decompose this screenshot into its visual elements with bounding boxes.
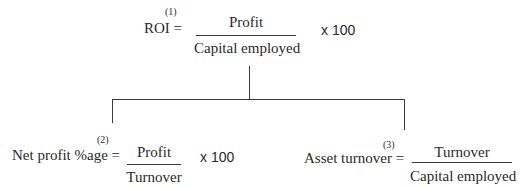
roi-denominator: Capital employed (194, 41, 298, 56)
connector-left-leg (112, 99, 113, 123)
roi-label: ROI = (144, 21, 182, 36)
connector-horizontal (112, 99, 405, 100)
roi-numerator: Profit (196, 15, 296, 30)
connector-stem (249, 66, 250, 99)
asset-turnover-index: (3) (383, 140, 395, 150)
roi-index: (1) (165, 7, 177, 17)
net-profit-fraction-bar (127, 164, 181, 165)
roi-fraction-bar (196, 35, 296, 36)
net-profit-denominator: Turnover (124, 170, 184, 185)
asset-turnover-label: Asset turnover = (304, 151, 404, 166)
asset-turnover-numerator: Turnover (412, 145, 512, 160)
asset-turnover-denominator: Capital employed (410, 169, 514, 184)
asset-turnover-fraction-bar (412, 162, 512, 163)
net-profit-multiplier: x 100 (200, 150, 234, 164)
roi-multiplier: x 100 (321, 23, 355, 37)
net-profit-numerator: Profit (127, 145, 181, 160)
net-profit-index: (2) (97, 135, 109, 145)
connector-right-leg (404, 99, 405, 130)
net-profit-label: Net profit %age = (12, 148, 120, 163)
